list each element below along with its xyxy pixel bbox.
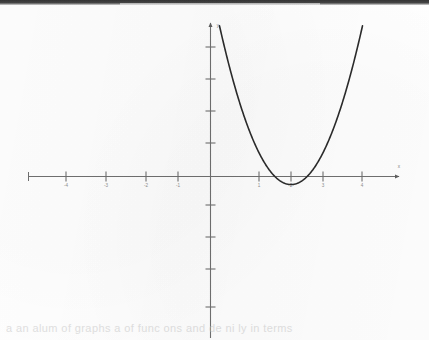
function-plot-line	[220, 26, 363, 185]
x-axis: -4 -3 -2 -1 1 2 3 4 x	[28, 164, 401, 188]
scan-ghost-text: a an alum of graphs a of func ons and de…	[6, 322, 424, 336]
x-tick-label-1: 1	[258, 183, 261, 188]
x-tick-label-3: 3	[322, 183, 325, 188]
scanned-page: -4 -3 -2 -1 1 2 3 4 x y	[0, 0, 429, 340]
x-tick-label-4: 4	[361, 183, 364, 188]
x-tick-label--2: -2	[144, 183, 149, 188]
x-tick-label--1: -1	[176, 183, 181, 188]
parabola-curve	[220, 26, 363, 185]
x-tick-label--4: -4	[64, 183, 69, 188]
x-axis-label: x	[398, 164, 401, 169]
coordinate-plane: -4 -3 -2 -1 1 2 3 4 x y	[0, 0, 429, 340]
x-tick-label--3: -3	[104, 183, 109, 188]
y-axis: y	[206, 23, 220, 338]
